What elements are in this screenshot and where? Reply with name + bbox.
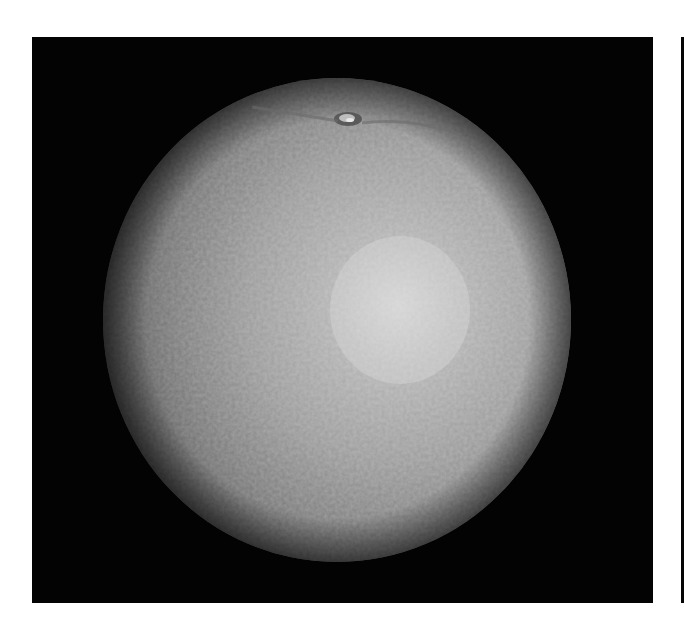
orange-stem: [334, 112, 362, 126]
orange-illustration: [32, 37, 653, 603]
orange-photo: [32, 37, 653, 603]
